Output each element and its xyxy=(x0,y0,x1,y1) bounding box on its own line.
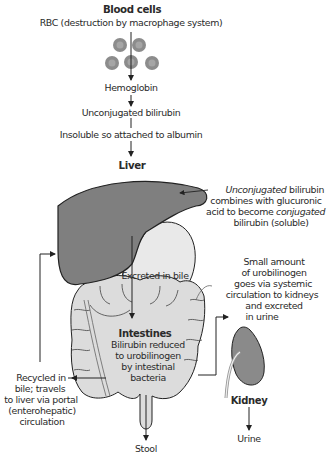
systemic-line6: in urine xyxy=(232,311,292,322)
recycled-line5: circulation xyxy=(12,416,72,427)
systemic-line2: of urobilinogen xyxy=(226,267,322,278)
rbc-subtitle: RBC (destruction by macrophage system) xyxy=(24,17,238,28)
recycled-line1: Recycled in xyxy=(12,372,70,383)
systemic-line4: circulation to kidneys xyxy=(218,289,326,300)
stool-label: Stool xyxy=(128,443,164,454)
liver-note-italic-1: Unconjugated xyxy=(225,184,286,195)
hemoglobin-label: Hemoglobin xyxy=(96,82,166,93)
liver-note-line3: acid to become conjugated xyxy=(206,206,324,217)
unconjugated-bilirubin-label: Unconjugated bilirubin xyxy=(60,107,202,118)
liver-note-line2: combines with glucuronic xyxy=(208,195,324,206)
intestines-heading: Intestines xyxy=(110,328,180,339)
liver-note-rest-1: bilirubin xyxy=(286,184,324,195)
intestines-line3: by intestinal xyxy=(112,361,184,372)
blood-cells-heading: Blood cells xyxy=(96,4,168,15)
intestines-line1: Bilirubin reduced xyxy=(106,339,190,350)
liver-note-line4: bilirubin (soluble) xyxy=(226,217,316,228)
intestines-line2: to urobilinogen xyxy=(108,350,188,361)
recycled-line2: bile; travels xyxy=(12,383,68,394)
kidney-icon xyxy=(226,327,264,398)
urine-label: Urine xyxy=(230,433,268,444)
liver-note-line1: Unconjugated bilirubin xyxy=(212,184,324,195)
systemic-line1: Small amount xyxy=(226,256,322,267)
albumin-label: Insoluble so attached to albumin xyxy=(36,129,226,140)
recycled-line4: (enterohepatic) xyxy=(8,405,76,416)
red-blood-cells-icon xyxy=(105,38,159,70)
intestines-line4: bacteria xyxy=(122,372,174,383)
systemic-line3: goes via systemic xyxy=(222,278,324,289)
liver-note-prefix-3: acid to become xyxy=(206,206,276,217)
kidney-heading: Kidney xyxy=(226,395,272,406)
liver-note-italic-3: conjugated xyxy=(276,206,325,217)
systemic-line5: and excreted xyxy=(226,300,322,311)
excreted-in-bile-label: Excreted in bile xyxy=(112,270,198,281)
recycled-line3: to liver via portal xyxy=(2,394,80,405)
liver-heading: Liver xyxy=(110,160,154,171)
